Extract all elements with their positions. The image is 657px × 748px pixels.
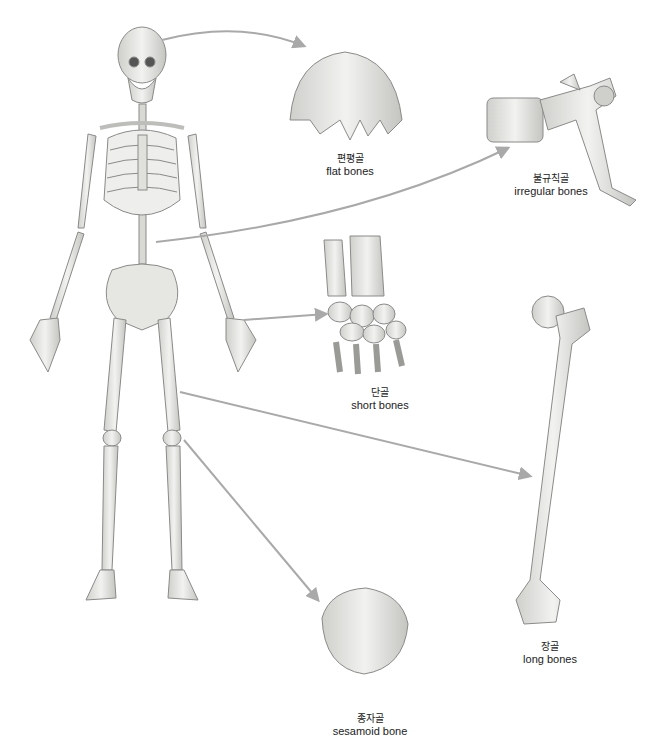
arrow-to-flat (162, 31, 304, 46)
human-skeleton (30, 27, 256, 600)
label-flat-bones: 편평골 flat bones (300, 152, 400, 178)
label-en: short bones (330, 399, 430, 412)
short-bone-illustration (324, 236, 406, 374)
label-en: long bones (500, 653, 600, 666)
label-long-bones: 장골 long bones (500, 640, 600, 666)
label-sesamoid-bone: 종자골 sesamoid bone (315, 712, 425, 738)
bone-diagram (0, 0, 657, 748)
label-ko: 불규칙골 (496, 172, 606, 185)
label-ko: 편평골 (300, 152, 400, 165)
label-short-bones: 단골 short bones (330, 386, 430, 412)
label-en: flat bones (300, 165, 400, 178)
label-irregular-bones: 불규칙골 irregular bones (496, 172, 606, 198)
label-en: irregular bones (496, 185, 606, 198)
sesamoid-bone-illustration (322, 588, 408, 674)
arrow-to-sesamoid (184, 440, 318, 600)
arrow-to-short (244, 314, 326, 320)
long-bone-illustration (516, 296, 590, 624)
label-ko: 종자골 (315, 712, 425, 725)
flat-bone-illustration (290, 52, 402, 140)
label-en: sesamoid bone (315, 725, 425, 738)
label-ko: 장골 (500, 640, 600, 653)
label-ko: 단골 (330, 386, 430, 399)
